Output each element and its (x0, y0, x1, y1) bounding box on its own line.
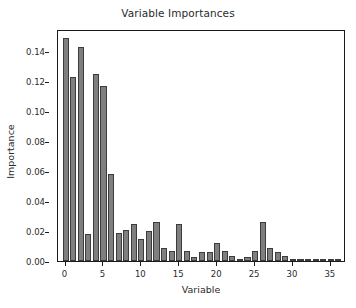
bar (85, 234, 91, 261)
bar (70, 77, 76, 261)
bar (108, 174, 114, 261)
x-tick-mark (102, 262, 103, 266)
bar (237, 259, 243, 261)
y-tick-mark (45, 142, 49, 143)
bar (169, 251, 175, 261)
y-axis-label: Importance (5, 97, 16, 207)
bar (313, 259, 319, 261)
y-axis: Importance 0.000.020.040.060.080.100.120… (0, 0, 57, 308)
x-tick-mark (178, 262, 179, 266)
bar (184, 251, 190, 261)
x-tick-mark (140, 262, 141, 266)
bar (222, 251, 228, 261)
x-tick-mark (65, 262, 66, 266)
bar (244, 257, 250, 261)
bar (138, 239, 144, 261)
bar (252, 251, 258, 261)
x-tick-label: 10 (135, 269, 146, 279)
bar (199, 252, 205, 261)
bar (93, 74, 99, 261)
x-tick-label: 20 (211, 269, 222, 279)
x-tick-label: 5 (100, 269, 105, 279)
bar (260, 222, 266, 261)
bar (290, 259, 296, 261)
bar (78, 47, 84, 261)
bar (176, 224, 182, 261)
y-tick-label: 0.00 (26, 257, 45, 267)
y-tick-mark (45, 172, 49, 173)
bar (275, 252, 281, 261)
bar (161, 248, 167, 261)
x-tick-mark (216, 262, 217, 266)
bar (100, 86, 106, 261)
bar (191, 257, 197, 261)
bar-series (58, 31, 344, 261)
bar (207, 252, 213, 261)
y-tick-label: 0.08 (26, 137, 45, 147)
y-tick-mark (45, 232, 49, 233)
y-tick-label: 0.02 (26, 227, 45, 237)
bar (267, 248, 273, 261)
x-tick-label: 25 (249, 269, 260, 279)
y-tick-label: 0.14 (26, 47, 45, 57)
bar (305, 259, 311, 261)
y-tick-mark (45, 52, 49, 53)
bar (214, 243, 220, 261)
bar (282, 256, 288, 261)
bar (123, 230, 129, 261)
plot-area (57, 30, 345, 262)
x-tick-label: 30 (287, 269, 298, 279)
x-axis: Variable 05101520253035 (57, 262, 345, 308)
y-tick-label: 0.12 (26, 77, 45, 87)
y-tick-mark (45, 262, 49, 263)
y-tick-mark (45, 112, 49, 113)
y-tick-label: 0.10 (26, 107, 45, 117)
x-tick-mark (254, 262, 255, 266)
bar (229, 256, 235, 261)
bar (328, 259, 334, 261)
x-tick-label: 0 (62, 269, 67, 279)
bar (116, 233, 122, 261)
y-tick-label: 0.04 (26, 197, 45, 207)
x-tick-mark (330, 262, 331, 266)
y-tick-label: 0.06 (26, 167, 45, 177)
x-axis-label: Variable (57, 284, 345, 295)
bar (335, 259, 341, 261)
x-tick-label: 15 (173, 269, 184, 279)
bar (153, 222, 159, 261)
bar (297, 259, 303, 261)
bar (320, 259, 326, 261)
x-tick-mark (292, 262, 293, 266)
figure-canvas: Variable Importances Importance 0.000.02… (0, 0, 356, 308)
y-tick-mark (45, 202, 49, 203)
y-tick-mark (45, 82, 49, 83)
x-tick-label: 35 (324, 269, 335, 279)
bar (146, 231, 152, 261)
bar (131, 224, 137, 261)
bar (63, 38, 69, 261)
